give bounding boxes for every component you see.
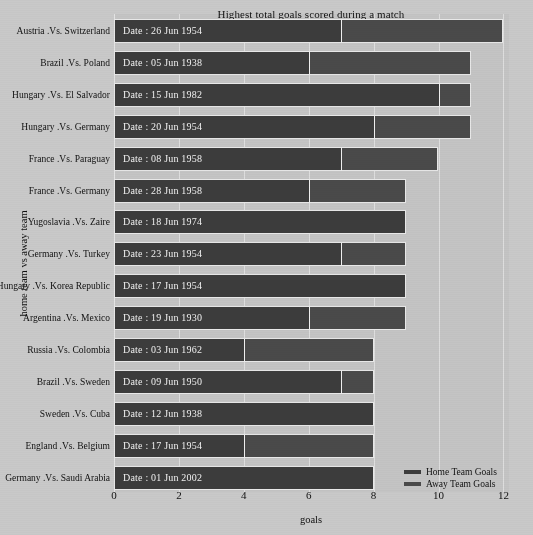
bar-segment-away[interactable] [309,306,406,330]
bar-date-label: Date : 12 Jun 1938 [123,406,202,422]
legend-swatch-icon [404,470,421,474]
y-axis-tick-label: England .Vs. Belgium [26,438,110,454]
bar-date-label: Date : 28 Jun 1958 [123,183,202,199]
y-axis-tick-label: Yugoslavia .Vs. Zaire [28,214,110,230]
bar-segment-away[interactable] [244,338,374,362]
bar-date-label: Date : 03 Jun 1962 [123,342,202,358]
bar-segment-away[interactable] [309,179,406,203]
x-axis-tick-label: 2 [164,489,194,501]
stacked-bar[interactable]: Date : 17 Jun 1954 [114,434,374,458]
bar-date-label: Date : 05 Jun 1938 [123,55,202,71]
stacked-bar[interactable]: Date : 28 Jun 1958 [114,179,406,203]
y-axis-tick-label: Hungary .Vs. Korea Republic [0,278,110,294]
y-axis-tick-label: France .Vs. Germany [29,183,110,199]
stacked-bar[interactable]: Date : 19 Jun 1930 [114,306,406,330]
bar-date-label: Date : 20 Jun 1954 [123,119,202,135]
bar-segment-away[interactable] [244,434,374,458]
bar-row[interactable]: England .Vs. BelgiumDate : 17 Jun 1954 [0,434,533,458]
stacked-bar[interactable]: Date : 12 Jun 1938 [114,402,374,426]
y-axis-tick-label: Brazil .Vs. Poland [40,55,110,71]
x-axis-tick-label: 12 [488,489,518,501]
bar-row[interactable]: Germany .Vs. TurkeyDate : 23 Jun 1954 [0,242,533,266]
y-axis-tick-label: Sweden .Vs. Cuba [40,406,110,422]
y-axis-tick-label: Hungary .Vs. El Salvador [12,87,110,103]
stacked-bar[interactable]: Date : 23 Jun 1954 [114,242,406,266]
stacked-bar[interactable]: Date : 17 Jun 1954 [114,274,406,298]
bar-segment-away[interactable] [341,242,406,266]
bar-segment-away[interactable] [341,147,438,171]
x-axis-tick-label: 0 [99,489,129,501]
stacked-bar[interactable]: Date : 05 Jun 1938 [114,51,471,75]
x-axis-label: goals [114,514,508,525]
chart-container: Highest total goals scored during a matc… [0,0,533,535]
stacked-bar[interactable]: Date : 15 Jun 1982 [114,83,471,107]
stacked-bar[interactable]: Date : 09 Jun 1950 [114,370,374,394]
legend-swatch-icon [404,482,421,486]
bar-row[interactable]: Hungary .Vs. Korea RepublicDate : 17 Jun… [0,274,533,298]
bar-segment-away[interactable] [439,83,471,107]
bar-date-label: Date : 08 Jun 1958 [123,151,202,167]
bar-date-label: Date : 23 Jun 1954 [123,246,202,262]
x-axis-tick-label: 10 [424,489,454,501]
bar-row[interactable]: Russia .Vs. ColombiaDate : 03 Jun 1962 [0,338,533,362]
bar-row[interactable]: Yugoslavia .Vs. ZaireDate : 18 Jun 1974 [0,210,533,234]
bar-segment-away[interactable] [341,19,503,43]
y-axis-tick-label: Argentina .Vs. Mexico [23,310,110,326]
y-axis-tick-label: France .Vs. Paraguay [29,151,110,167]
chart-legend[interactable]: Home Team GoalsAway Team Goals [404,466,497,490]
bar-date-label: Date : 15 Jun 1982 [123,87,202,103]
x-axis-tick-label: 4 [229,489,259,501]
bar-row[interactable]: Argentina .Vs. MexicoDate : 19 Jun 1930 [0,306,533,330]
bar-date-label: Date : 01 Jun 2002 [123,470,202,486]
bar-date-label: Date : 17 Jun 1954 [123,278,202,294]
bar-date-label: Date : 26 Jun 1954 [123,23,202,39]
legend-item[interactable]: Home Team Goals [404,466,497,478]
stacked-bar[interactable]: Date : 18 Jun 1974 [114,210,406,234]
bar-segment-away[interactable] [341,370,373,394]
stacked-bar[interactable]: Date : 08 Jun 1958 [114,147,439,171]
legend-item[interactable]: Away Team Goals [404,478,497,490]
bar-row[interactable]: Hungary .Vs. GermanyDate : 20 Jun 1954 [0,115,533,139]
bar-segment-away[interactable] [374,115,471,139]
bar-row[interactable]: Brazil .Vs. PolandDate : 05 Jun 1938 [0,51,533,75]
bar-row[interactable]: France .Vs. ParaguayDate : 08 Jun 1958 [0,147,533,171]
legend-label: Away Team Goals [426,478,496,490]
bar-date-label: Date : 17 Jun 1954 [123,438,202,454]
bar-row[interactable]: Hungary .Vs. El SalvadorDate : 15 Jun 19… [0,83,533,107]
y-axis-tick-label: Austria .Vs. Switzerland [17,23,110,39]
y-axis-tick-label: Germany .Vs. Saudi Arabia [5,470,110,486]
bar-row[interactable]: Austria .Vs. SwitzerlandDate : 26 Jun 19… [0,19,533,43]
y-axis-tick-label: Hungary .Vs. Germany [21,119,110,135]
y-axis-tick-label: Russia .Vs. Colombia [27,342,110,358]
stacked-bar[interactable]: Date : 01 Jun 2002 [114,466,374,490]
y-axis-tick-label: Brazil .Vs. Sweden [37,374,110,390]
legend-label: Home Team Goals [426,466,497,478]
bar-segment-away[interactable] [309,51,471,75]
x-axis-tick-label: 8 [359,489,389,501]
bar-date-label: Date : 09 Jun 1950 [123,374,202,390]
bar-row[interactable]: Sweden .Vs. CubaDate : 12 Jun 1938 [0,402,533,426]
bar-row[interactable]: Brazil .Vs. SwedenDate : 09 Jun 1950 [0,370,533,394]
y-axis-tick-label: Germany .Vs. Turkey [28,246,110,262]
stacked-bar[interactable]: Date : 03 Jun 1962 [114,338,374,362]
bar-date-label: Date : 18 Jun 1974 [123,214,202,230]
stacked-bar[interactable]: Date : 20 Jun 1954 [114,115,471,139]
bar-row[interactable]: France .Vs. GermanyDate : 28 Jun 1958 [0,179,533,203]
x-axis-tick-label: 6 [294,489,324,501]
bar-date-label: Date : 19 Jun 1930 [123,310,202,326]
stacked-bar[interactable]: Date : 26 Jun 1954 [114,19,503,43]
